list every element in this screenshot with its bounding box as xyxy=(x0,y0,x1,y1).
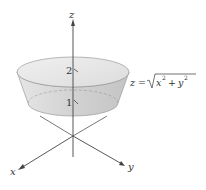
x-axis-back xyxy=(73,116,107,136)
equation-y: y xyxy=(177,77,184,88)
tick-1-label: 1 xyxy=(66,97,72,108)
x-axis-arrow-icon xyxy=(18,164,25,170)
equation-y-exp: 2 xyxy=(184,74,188,81)
x-axis-label: x xyxy=(10,166,16,177)
tick-2-label: 2 xyxy=(66,65,72,76)
y-axis-arrow-icon xyxy=(119,161,125,166)
z-axis-label: z xyxy=(68,9,75,20)
equation-x-exp: 2 xyxy=(162,74,166,81)
equation-plus: + xyxy=(168,77,176,88)
y-axis xyxy=(73,136,122,164)
y-axis-back xyxy=(40,116,73,136)
surface-equation: z = x 2 + y 2 xyxy=(129,74,196,88)
z-axis-arrow-icon xyxy=(71,19,75,26)
x-axis xyxy=(21,136,73,168)
equation-lhs: z = xyxy=(129,77,146,88)
cone-frustum-diagram: z x y 2 1 z = x 2 + y 2 xyxy=(0,0,206,190)
y-axis-label: y xyxy=(127,161,134,172)
